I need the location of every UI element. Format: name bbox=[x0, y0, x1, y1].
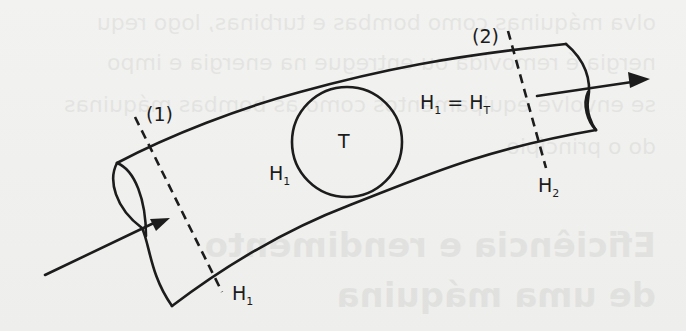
pipe-inlet-back bbox=[117, 163, 146, 236]
energy-section1-label: H1 bbox=[232, 284, 253, 307]
pipe-outlet-back bbox=[586, 92, 596, 130]
energy-equation-label: H1 = HT bbox=[420, 93, 490, 116]
flow-in-arrow-line bbox=[45, 221, 158, 275]
flow-out-arrowhead-icon bbox=[628, 72, 650, 88]
flow-out-arrow-line bbox=[537, 82, 632, 96]
pipe-turbine-diagram bbox=[0, 0, 686, 331]
pipe-inlet-end bbox=[113, 163, 172, 306]
section-1-dashed-line bbox=[135, 117, 222, 292]
pipe-bottom-edge bbox=[172, 130, 596, 306]
section-1-label: (1) bbox=[146, 105, 173, 124]
energy-section2-label: H2 bbox=[538, 176, 559, 199]
turbine-label: T bbox=[338, 132, 350, 151]
section-2-label: (2) bbox=[472, 27, 499, 46]
energy-left-label: H1 bbox=[269, 164, 290, 187]
flow-in-arrowhead-icon bbox=[150, 218, 170, 231]
